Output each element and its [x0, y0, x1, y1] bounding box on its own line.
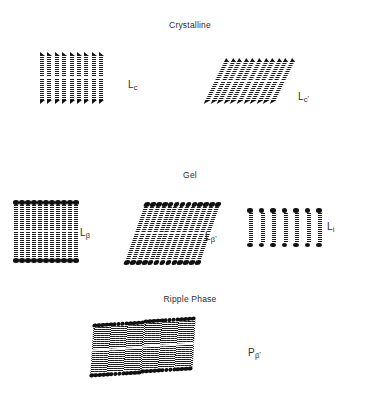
bilayer-lc-prime [204, 58, 299, 104]
lipid-head-oval-icon [293, 243, 299, 248]
leaflet-lower [141, 344, 193, 373]
lipid-tail [68, 205, 72, 231]
lipid-tail [62, 232, 66, 258]
lipid-tail [74, 205, 78, 231]
lipid-tail [84, 55, 88, 77]
lipid-tail [44, 232, 48, 258]
bilayer-p-beta-prime [92, 318, 307, 383]
lipid-phase-diagram: Crystalline Gel Ripple Phase Lc Lc' [0, 0, 380, 412]
headgroup-row-bottom [124, 260, 202, 265]
lipid-molecule [260, 213, 272, 243]
tail-row-bottom [40, 79, 107, 101]
lipid-tail [50, 232, 54, 258]
lipid-tail [47, 79, 51, 101]
lipid-tail [40, 79, 44, 101]
ripple-domain [141, 317, 195, 373]
lipid-tail [20, 205, 24, 231]
bilayer-l-i [248, 208, 329, 247]
lipid-molecule [47, 101, 54, 104]
lipid-head-arrow-icon [62, 100, 67, 104]
lipid-head-arrow-icon [55, 100, 60, 104]
phase-label-subscript: β [86, 231, 91, 240]
lipid-tail [26, 205, 30, 231]
phase-label-base: L [205, 231, 211, 242]
lipid-head-arrow-icon [47, 100, 52, 104]
lipid-tail [190, 320, 195, 342]
lipid-molecule [92, 101, 99, 104]
lipid-tail [68, 232, 72, 258]
lipid-molecule [271, 213, 283, 243]
lipid-head-oval-icon [43, 258, 49, 263]
lipid-tail [74, 232, 78, 258]
lipid-molecule [84, 55, 91, 77]
tail-row-bottom [205, 82, 287, 101]
phase-label-prime: ' [259, 350, 261, 359]
phase-label-lc: Lc [128, 80, 138, 92]
tail-row-bottom [90, 348, 142, 373]
leaflet-lower [40, 79, 107, 104]
lipid-tail [284, 213, 288, 243]
lipid-head-oval-icon [305, 243, 311, 248]
section-heading-ripple: Ripple Phase [0, 294, 380, 304]
phase-label-subscript: i [333, 225, 335, 234]
lipid-molecule [99, 79, 106, 101]
leaflet-upper [92, 321, 144, 350]
lipid-tail [295, 213, 299, 243]
lipid-tail [77, 55, 81, 77]
lipid-tail [99, 55, 103, 77]
lipid-tail [32, 232, 36, 258]
lipid-molecule [294, 213, 306, 243]
lipid-molecule [77, 101, 84, 104]
lipid-molecule [77, 79, 84, 101]
lipid-head-oval-icon [247, 243, 253, 248]
lipid-head-oval-icon [73, 258, 79, 263]
lipid-tail [56, 205, 60, 231]
lipid-molecule [283, 243, 295, 248]
lipid-molecule [62, 55, 69, 77]
lipid-head-oval-icon [13, 258, 19, 263]
lipid-head-oval-icon [67, 258, 73, 263]
lipid-molecule [248, 213, 260, 243]
lipid-molecule [92, 55, 99, 77]
lipid-head-arrow-icon [270, 100, 277, 104]
lipid-tail [70, 79, 74, 101]
lipid-tail [272, 213, 276, 243]
phase-label-l-beta: Lβ [80, 228, 90, 240]
section-heading-gel: Gel [0, 170, 380, 180]
phase-label-base: P [248, 347, 255, 358]
leaflet-lower [124, 234, 211, 265]
section-heading-crystalline: Crystalline [0, 20, 380, 30]
lipid-molecule [283, 213, 295, 243]
lipid-tail [62, 205, 66, 231]
ripple-domain [90, 321, 144, 377]
lipid-molecule [47, 79, 54, 101]
lipid-molecule [99, 55, 106, 77]
phase-label-p-beta-prime: Pβ' [248, 348, 261, 360]
lipid-tail [55, 79, 59, 101]
lipid-head-arrow-icon [70, 100, 75, 104]
lipid-molecule [47, 55, 54, 77]
lipid-tail [20, 232, 24, 258]
tail-row-bottom [14, 232, 80, 258]
bilayer-lc [40, 52, 107, 104]
bilayer-l-beta [14, 200, 80, 263]
lipid-tail [38, 205, 42, 231]
lipid-head-arrow-icon [40, 100, 45, 104]
lipid-tail [14, 232, 18, 258]
lipid-tail [26, 232, 30, 258]
lipid-tail [84, 79, 88, 101]
lipid-molecule [306, 243, 318, 248]
tail-row-top [215, 61, 297, 80]
lipid-molecule [99, 101, 106, 104]
lipid-tail [77, 79, 81, 101]
lipid-molecule [188, 344, 193, 366]
phase-label-subscript: c [134, 83, 138, 92]
lipid-tail [38, 232, 42, 258]
lipid-molecule [306, 213, 318, 243]
leaflet-lower [14, 232, 80, 263]
lipid-head-oval-icon [316, 243, 322, 248]
tail-row-bottom [141, 344, 193, 369]
lipid-molecule [195, 260, 202, 265]
leaflet-lower [90, 348, 142, 377]
lipid-molecule [55, 79, 62, 101]
